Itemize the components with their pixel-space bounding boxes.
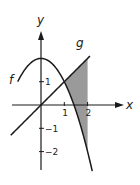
y-axis-label: y <box>36 13 45 27</box>
curve-g-label: g <box>76 36 84 50</box>
x-tick-label: 1 <box>62 108 68 118</box>
x-axis-label: x <box>125 98 134 112</box>
curve-f-label: f <box>9 73 15 87</box>
y-tick-label: −2 <box>45 147 58 157</box>
function-diagram: 121−1−2 x y f g <box>0 0 140 185</box>
y-axis-arrow-icon <box>38 31 44 40</box>
x-tick-label: 2 <box>86 108 92 118</box>
x-axis-arrow-icon <box>115 102 124 108</box>
y-tick-label: 1 <box>45 77 51 87</box>
y-tick-label: −1 <box>45 124 58 134</box>
